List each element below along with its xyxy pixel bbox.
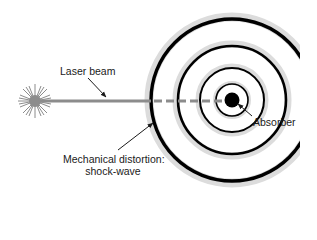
- shock-wave-label-line1: Mechanical distortion:: [63, 153, 163, 165]
- shock-wave-label: Mechanical distortion: shock-wave: [63, 153, 163, 177]
- laser-beam-arrow: [88, 78, 106, 97]
- starburst-icon: [18, 84, 52, 118]
- absorber-label: Absorber: [253, 116, 296, 128]
- shock-wave-label-line2: shock-wave: [63, 165, 163, 177]
- shock-wave-arrow: [118, 123, 153, 150]
- laser-beam-label: Laser beam: [60, 65, 115, 77]
- absorber-dot: [225, 93, 240, 108]
